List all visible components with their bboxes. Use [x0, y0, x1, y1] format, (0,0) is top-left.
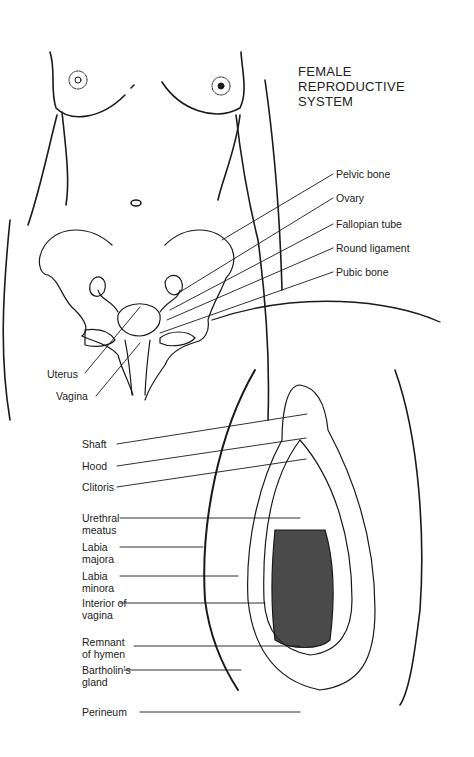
vulva: [204, 370, 422, 705]
label-urethral-meatus: Urethral meatus: [82, 512, 119, 536]
label-pelvic-bone: Pelvic bone: [336, 168, 390, 180]
label-remnant-of-hymen: Remnant of hymen: [82, 636, 125, 660]
label-pubic-bone: Pubic bone: [336, 266, 389, 278]
label-labia-minora: Labia minora: [82, 570, 114, 594]
label-hood: Hood: [82, 460, 107, 472]
label-interior-of-vagina: Interior of vagina: [82, 597, 126, 621]
label-fallopian-tube: Fallopian tube: [336, 218, 402, 230]
label-round-ligament: Round ligament: [336, 242, 410, 254]
label-labia-majora: Labia majora: [82, 541, 114, 565]
label-bartholins-gland: Bartholin's gland: [82, 664, 131, 688]
diagram-title: FEMALE REPRODUCTIVE SYSTEM: [298, 64, 405, 109]
label-shaft: Shaft: [82, 438, 107, 450]
label-uterus: Uterus: [47, 368, 78, 380]
label-perineum: Perineum: [82, 706, 127, 718]
nipples: [69, 71, 230, 95]
label-vagina: Vagina: [56, 390, 88, 402]
torso-outline: [3, 52, 282, 420]
label-clitoris: Clitoris: [82, 481, 114, 493]
label-ovary: Ovary: [336, 192, 364, 204]
leader-lines-upper: [85, 174, 333, 396]
navel: [131, 200, 141, 206]
